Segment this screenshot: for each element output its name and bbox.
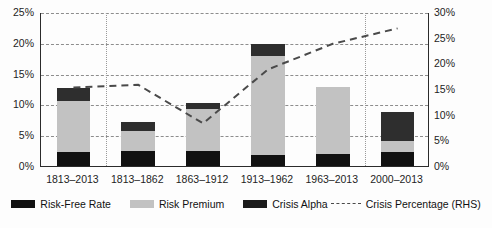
legend-label-risk-free-rate: Risk-Free Rate xyxy=(40,198,111,210)
plot-area xyxy=(40,13,429,167)
legend-item-risk-free-rate: Risk-Free Rate xyxy=(11,198,111,210)
stacked-bar-chart: 0%5%10%15%20%25% 0%5%10%15%20%25%30% 181… xyxy=(0,0,492,228)
y-axis-left-tick-label: 5% xyxy=(0,130,34,141)
y-axis-left-tick-label: 25% xyxy=(0,7,34,18)
x-axis-tick-label: 1863–1912 xyxy=(170,173,235,185)
y-axis-right-tick-label: 20% xyxy=(434,58,474,69)
y-axis-right-tick-label: 30% xyxy=(434,7,474,18)
legend-label-crisis-alpha: Crisis Alpha xyxy=(272,198,327,210)
chart-legend: Risk-Free Rate Risk Premium Crisis Alpha… xyxy=(0,198,492,210)
y-axis-right-tick-label: 5% xyxy=(434,135,474,146)
legend-label-crisis-percentage: Crisis Percentage (RHS) xyxy=(366,198,481,210)
crisis-percentage-path xyxy=(73,28,397,123)
y-axis-left-tick-label: 10% xyxy=(0,99,34,110)
y-axis-right-tick-label: 10% xyxy=(434,110,474,121)
crisis-percentage-line xyxy=(41,13,430,167)
legend-swatch-icon-risk-free-rate xyxy=(11,200,35,208)
x-axis-tick-label: 1913–1962 xyxy=(235,173,300,185)
x-axis-tick-label: 1813–2013 xyxy=(40,173,105,185)
x-axis-tick-label: 1813–1862 xyxy=(105,173,170,185)
y-axis-right-tick-label: 15% xyxy=(434,84,474,95)
y-axis-right-tick-label: 25% xyxy=(434,33,474,44)
legend-swatch-icon-risk-premium xyxy=(130,200,154,208)
y-axis-left-tick-label: 15% xyxy=(0,69,34,80)
legend-swatch-icon-crisis-alpha xyxy=(243,200,267,208)
y-axis-left-tick-label: 0% xyxy=(0,161,34,172)
y-axis-left-tick-label: 20% xyxy=(0,38,34,49)
legend-label-risk-premium: Risk Premium xyxy=(159,198,224,210)
legend-dashed-line-icon xyxy=(331,203,361,204)
legend-item-crisis-percentage: Crisis Percentage (RHS) xyxy=(328,198,481,210)
legend-item-risk-premium: Risk Premium xyxy=(130,198,224,210)
legend-item-crisis-alpha: Crisis Alpha xyxy=(243,198,327,210)
x-axis-tick-label: 1963–2013 xyxy=(299,173,364,185)
x-axis-tick-label: 2000–2013 xyxy=(364,173,429,185)
y-axis-right-tick-label: 0% xyxy=(434,161,474,172)
